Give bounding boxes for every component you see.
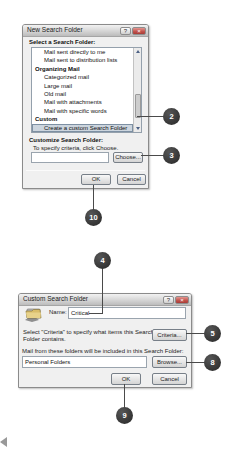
list-item[interactable]: Mail sent to distribution lists (32, 56, 133, 64)
callout-line-step5 (186, 333, 205, 334)
page-margin-ornament (0, 437, 7, 447)
scroll-down-icon[interactable] (136, 127, 140, 130)
criteria-field[interactable] (31, 152, 109, 163)
help-icon[interactable]: ? (163, 296, 174, 304)
cancel-button[interactable]: Cancel (117, 174, 146, 185)
callout-step-9: 9 (116, 407, 133, 424)
tutorial-page: New Search Folder ? × Select a Search Fo… (0, 0, 237, 452)
ok-button[interactable]: OK (81, 174, 111, 185)
search-folder-icon (24, 306, 44, 326)
dialog1-titlebar[interactable]: New Search Folder ? × (23, 25, 148, 37)
callout-line-step2 (137, 116, 165, 117)
callout-step-2: 2 (163, 108, 180, 125)
callout-step-5: 5 (204, 325, 221, 342)
list-item[interactable]: Categorized mail (32, 73, 133, 81)
new-search-folder-dialog: New Search Folder ? × Select a Search Fo… (22, 24, 149, 189)
callout-line-step9 (124, 384, 125, 408)
list-item[interactable]: Large mail (32, 82, 133, 90)
search-folder-listbox[interactable]: Mail sent directly to me Mail sent to di… (31, 47, 142, 133)
callout-line-step4-vertical (102, 268, 103, 314)
customize-search-folder-label: Customize Search Folder: (29, 137, 103, 143)
list-group-header: Organizing Mail (32, 65, 133, 73)
browse-button[interactable]: Browse... (152, 356, 187, 368)
folders-included-label: Mail from these folders will be included… (22, 348, 183, 354)
dialog2-titlebar-buttons: ? × (163, 296, 189, 304)
callout-line-step8 (186, 362, 205, 363)
dialog2-title: Custom Search Folder (23, 295, 88, 302)
close-icon[interactable]: × (132, 27, 146, 35)
callout-step-3: 3 (163, 147, 180, 164)
callout-line-step3 (141, 155, 165, 156)
ok-button[interactable]: OK (111, 373, 141, 385)
scrollbar-thumb[interactable] (135, 94, 141, 118)
criteria-description-line1: Select "Criteria" to specify what items … (23, 329, 154, 335)
callout-line-step10 (93, 185, 94, 210)
criteria-description-line2: Folder contains. (23, 336, 66, 342)
help-icon[interactable]: ? (120, 27, 131, 35)
list-group-header: Custom (32, 115, 133, 123)
criteria-button[interactable]: Criteria... (152, 329, 187, 341)
close-icon[interactable]: × (175, 296, 189, 304)
dialog1-titlebar-buttons: ? × (120, 27, 146, 35)
scroll-up-icon[interactable] (136, 50, 140, 53)
cancel-button[interactable]: Cancel (152, 373, 187, 385)
list-item[interactable]: Mail sent directly to me (32, 48, 133, 56)
name-label: Name: (49, 309, 67, 315)
list-scrollbar[interactable] (133, 48, 141, 132)
callout-step-10: 10 (85, 209, 102, 226)
callout-step-8: 8 (204, 354, 221, 371)
criteria-hint-text: To specify criteria, click Choose. (33, 145, 118, 151)
dialog1-title: New Search Folder (27, 26, 83, 33)
dialog2-titlebar[interactable]: Custom Search Folder ? × (19, 294, 191, 306)
callout-line-step4-horizontal (89, 313, 103, 314)
search-folder-list: Mail sent directly to me Mail sent to di… (32, 48, 133, 132)
button-separator (26, 170, 145, 171)
choose-button[interactable]: Choose... (113, 152, 143, 163)
folders-field[interactable]: Personal Folders (22, 356, 147, 368)
callout-step-4: 4 (94, 252, 111, 269)
name-field[interactable]: Critical (68, 307, 186, 319)
list-item-create-custom-search-folder[interactable]: Create a custom Search Folder (32, 124, 133, 132)
list-item[interactable]: Old mail (32, 90, 133, 98)
list-item[interactable]: Mail with specific words (32, 107, 133, 115)
select-search-folder-label: Select a Search Folder: (29, 39, 95, 45)
list-item[interactable]: Mail with attachments (32, 98, 133, 106)
custom-search-folder-dialog: Custom Search Folder ? × Name: Critical … (18, 293, 192, 388)
